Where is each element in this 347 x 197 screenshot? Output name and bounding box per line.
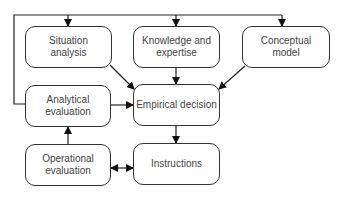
node-situation-analysis: Situation analysis (25, 26, 112, 68)
node-conceptual-model: Conceptual model (242, 26, 330, 68)
node-analytical-evaluation: Analytical evaluation (25, 85, 111, 127)
node-empirical-decision: Empirical decision (133, 84, 220, 126)
flow-diagram: Situation analysis Knowledge and experti… (0, 0, 347, 197)
arrow-conceptual-to-empirical (219, 66, 245, 89)
node-operational-evaluation: Operational evaluation (25, 144, 111, 186)
node-knowledge-and-expertise: Knowledge and expertise (133, 26, 220, 68)
arrow-situation-to-empirical (110, 65, 134, 89)
node-instructions: Instructions (133, 143, 220, 185)
